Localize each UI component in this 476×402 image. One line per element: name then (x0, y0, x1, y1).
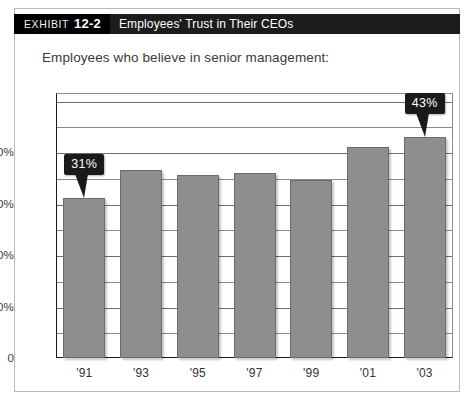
bar (177, 175, 219, 358)
x-axis-tick-label: '93 (113, 366, 170, 380)
x-axis-tick-label: '99 (283, 366, 340, 380)
x-axis-tick-label: '91 (56, 366, 113, 380)
y-axis-tick-label: 40% (0, 146, 14, 158)
y-axis-tick-label: 10% (0, 301, 14, 313)
bar (234, 173, 276, 358)
value-callout: 31% (64, 154, 104, 175)
gridline (57, 153, 452, 154)
chart-plot-wrapper: 010%20%30%40%'91'93'95'97'99'01'0331%43% (0, 0, 476, 402)
gridline (57, 102, 452, 103)
value-callout-tail (75, 174, 88, 198)
x-axis-tick-label: '03 (396, 366, 453, 380)
bar (347, 147, 389, 358)
value-callout-tail (416, 113, 429, 137)
value-callout: 43% (405, 93, 445, 114)
bar (63, 198, 105, 358)
y-axis-tick-label: 30% (0, 198, 14, 210)
y-axis-tick-label: 0 (0, 352, 14, 364)
bar (290, 180, 332, 358)
y-axis-tick-label: 20% (0, 249, 14, 261)
x-axis-tick-label: '01 (340, 366, 397, 380)
gridline (57, 127, 452, 128)
bar (120, 170, 162, 358)
value-callout-label: 43% (405, 93, 445, 114)
x-axis-tick-label: '97 (226, 366, 283, 380)
x-axis-tick-label: '95 (169, 366, 226, 380)
value-callout-label: 31% (64, 154, 104, 175)
bar (404, 137, 446, 358)
